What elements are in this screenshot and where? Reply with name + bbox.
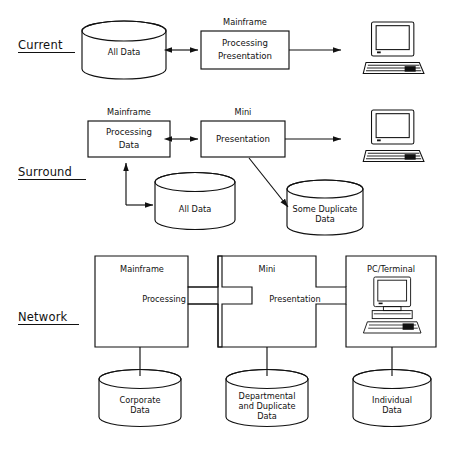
- box-mainframe-surround-caption: Mainframe: [107, 107, 151, 117]
- row-network: Network Mainframe Mini PC/Terminal Proce…: [18, 256, 436, 427]
- database-corporate-data-line2: Data: [130, 405, 150, 415]
- database-all-data-current-label: All Data: [108, 47, 140, 57]
- network-zone-mini-caption: Mini: [259, 264, 276, 274]
- box-mainframe-current-line1: Processing: [222, 38, 268, 48]
- database-corporate-data-line1: Corporate: [120, 395, 161, 405]
- box-mainframe-surround-line1: Processing: [106, 127, 152, 137]
- box-mini-surround: Mini Presentation: [201, 107, 285, 157]
- network-zone-mini: [188, 256, 252, 347]
- row-current: Current All Data Mainframe Processing Pr…: [18, 17, 424, 79]
- database-some-duplicate-data-line1: Some Duplicate: [293, 204, 358, 214]
- diagram-page: Current All Data Mainframe Processing Pr…: [0, 0, 455, 456]
- database-individual-data-line2: Data: [382, 405, 402, 415]
- database-all-data-surround-label: All Data: [179, 204, 211, 214]
- database-all-data-surround: All Data: [155, 173, 235, 230]
- row-surround: Surround Mainframe Processing Data Mini …: [18, 107, 424, 235]
- database-departmental-line3: Data: [257, 411, 277, 421]
- arrow-mini-to-duplicate-surround: [249, 158, 288, 207]
- computer-terminal-icon-current: [363, 22, 424, 74]
- row-label-network: Network: [18, 310, 68, 324]
- database-individual-data-line1: Individual: [372, 395, 412, 405]
- row-label-current: Current: [18, 38, 63, 52]
- row-label-surround: Surround: [18, 165, 72, 179]
- computer-terminal-icon-network: [363, 277, 421, 333]
- box-mainframe-current: Mainframe Processing Presentation: [201, 17, 289, 69]
- database-some-duplicate-data-line2: Data: [315, 214, 335, 224]
- network-joint-processing-label: Processing: [142, 294, 186, 304]
- box-mainframe-surround: Mainframe Processing Data: [88, 107, 170, 157]
- box-mini-surround-caption: Mini: [235, 107, 252, 117]
- box-mainframe-current-caption: Mainframe: [223, 17, 267, 27]
- database-individual-data: Individual Data: [353, 370, 431, 427]
- box-mainframe-surround-line2: Data: [119, 140, 140, 150]
- network-zone-mainframe-caption: Mainframe: [120, 264, 164, 274]
- database-departmental-line1: Departmental: [239, 391, 296, 401]
- database-departmental-line2: and Duplicate: [238, 401, 295, 411]
- arrow-alldata-to-mainframe-surround: [126, 163, 153, 205]
- architecture-diagram: Current All Data Mainframe Processing Pr…: [0, 0, 455, 456]
- box-mainframe-current-line2: Presentation: [218, 51, 272, 61]
- database-corporate-data: Corporate Data: [99, 370, 181, 427]
- database-departmental-duplicate-data: Departmental and Duplicate Data: [226, 370, 308, 427]
- computer-terminal-icon-surround: [363, 110, 424, 162]
- database-all-data-current: All Data: [82, 21, 166, 79]
- network-zone-pcterminal-caption: PC/Terminal: [367, 264, 415, 274]
- network-joint-presentation-label: Presentation: [269, 294, 320, 304]
- box-mini-surround-line1: Presentation: [216, 134, 270, 144]
- database-some-duplicate-data-surround: Some Duplicate Data: [287, 180, 363, 235]
